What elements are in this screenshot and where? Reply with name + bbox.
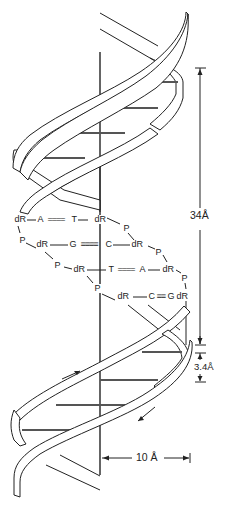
base-label-a: A — [37, 215, 44, 224]
phosphate-label: P — [155, 248, 162, 257]
base-label-a: A — [139, 265, 146, 274]
front-ribbon-cross-lower — [14, 306, 190, 420]
phosphate-label: P — [123, 224, 130, 233]
arrow-down-small-icon — [198, 376, 203, 381]
back-strand-bottom-edge-2 — [60, 455, 100, 476]
dna-helix-diagram: dR A ==== T dR P P dR G ≡≡≡≡ C dR P P dR… — [0, 0, 225, 509]
phosphate-label: P — [94, 284, 101, 293]
pitch-label: 34Å — [190, 210, 209, 221]
base-label-c: C — [148, 292, 156, 301]
base-label-t: T — [71, 215, 78, 224]
hydrogen-bond: ==== — [117, 265, 135, 274]
backbone-bonds — [18, 218, 186, 300]
base-label-g: G — [167, 292, 175, 301]
phosphate-label: P — [181, 274, 188, 283]
phosphate-label: P — [19, 236, 26, 245]
sugar-label: dR — [176, 292, 189, 301]
sugar-label: dR — [162, 265, 175, 274]
sugar-label: dR — [117, 292, 130, 301]
arrow-right-icon — [183, 456, 189, 461]
rise-label: 3.4Å — [194, 362, 214, 372]
base-label-c: C — [105, 240, 113, 249]
sugar-label: dR — [14, 215, 27, 224]
pitch-dimension — [195, 68, 206, 345]
hydrogen-bond: ≡≡ — [156, 292, 166, 301]
base-label-t: T — [108, 265, 115, 274]
sugar-label: dR — [73, 265, 86, 274]
back-strand-top-edge — [100, 13, 158, 46]
rise-dimension — [195, 336, 206, 382]
hydrogen-bond: ≡≡≡≡ — [80, 240, 98, 249]
radius-label: 10 Å — [136, 452, 158, 463]
back-strand-top-edge-2 — [100, 29, 150, 58]
helix-drawing — [0, 0, 225, 509]
arrow-up-icon — [198, 69, 203, 75]
sugar-label: dR — [36, 240, 49, 249]
base-label-g: G — [69, 240, 77, 249]
arrow-left-icon — [103, 456, 109, 461]
sugar-label: dR — [94, 215, 107, 224]
sugar-label: dR — [131, 240, 144, 249]
back-strand-bottom-edge — [46, 465, 100, 490]
arrow-up-small-icon — [198, 354, 203, 359]
hydrogen-bond: ==== — [47, 215, 65, 224]
phosphate-label: P — [54, 261, 61, 270]
